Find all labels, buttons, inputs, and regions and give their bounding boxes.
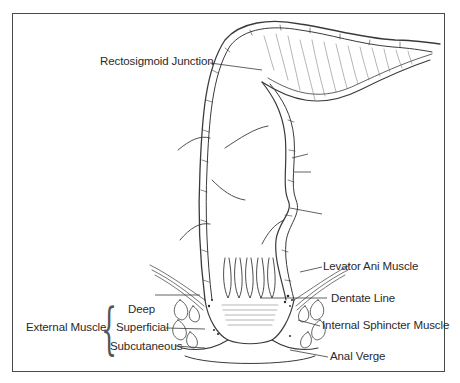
label-levator-ani-muscle: Levator Ani Muscle [323, 261, 418, 273]
leader-anal-verge [290, 350, 328, 357]
label-deep: Deep [128, 304, 155, 316]
leader-levator [300, 267, 322, 272]
rectal-wall-right [262, 82, 289, 300]
leader-internal-sphincter [298, 320, 320, 326]
label-external-muscle: External Muscle [26, 322, 106, 334]
leader-unlabeled-3 [290, 208, 322, 214]
leader-rectosigmoid [210, 63, 262, 70]
label-internal-sphincter-muscle: Internal Sphincter Muscle [322, 320, 449, 332]
label-anal-verge: Anal Verge [330, 351, 385, 363]
label-superficial: Superficial [116, 322, 169, 334]
label-rectosigmoid-junction: Rectosigmoid Junction [100, 56, 214, 68]
label-dentate-line: Dentate Line [331, 293, 395, 305]
rectal-wall-left-outer [199, 21, 440, 300]
leader-superficial [166, 328, 205, 329]
label-subcutaneous: Subcutaneous [110, 341, 182, 353]
